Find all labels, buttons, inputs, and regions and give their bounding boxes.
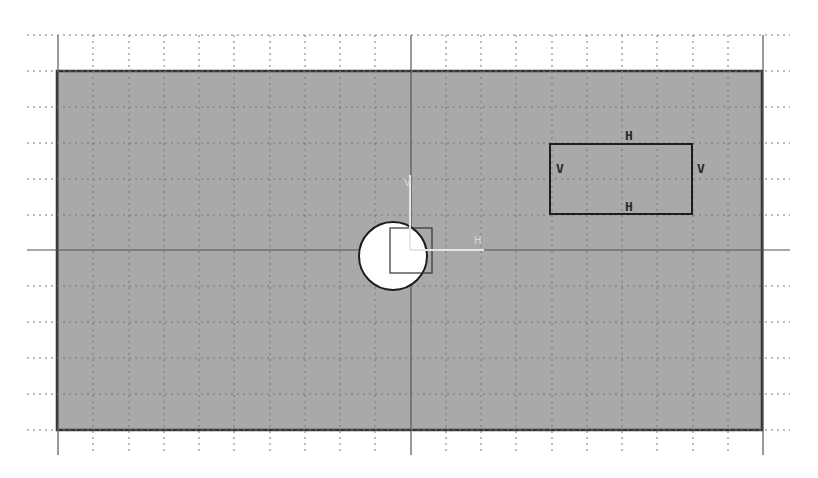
horizontal-constraint-top[interactable]: H bbox=[625, 128, 633, 143]
sketch-canvas[interactable]: V H H H V V bbox=[0, 0, 818, 478]
horizontal-constraint-bottom[interactable]: H bbox=[625, 199, 633, 214]
v-axis-label: V bbox=[404, 177, 411, 188]
sketch-circle[interactable] bbox=[359, 222, 427, 290]
vertical-constraint-left[interactable]: V bbox=[556, 161, 564, 176]
h-axis-label: H bbox=[474, 235, 482, 246]
vertical-constraint-right[interactable]: V bbox=[697, 161, 705, 176]
